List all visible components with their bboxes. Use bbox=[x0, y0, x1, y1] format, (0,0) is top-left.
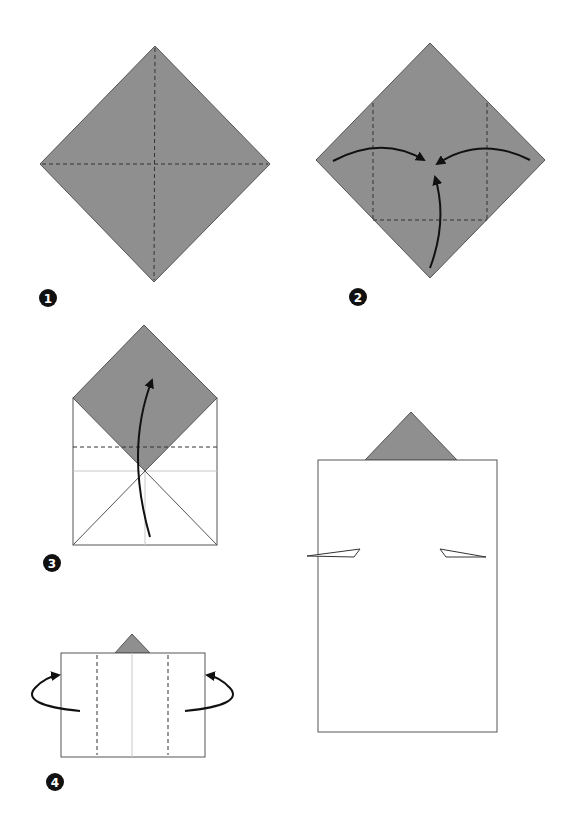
final-model bbox=[307, 412, 497, 732]
step-1: 1 bbox=[39, 46, 270, 307]
svg-text:4: 4 bbox=[51, 776, 59, 790]
step-4: 4 bbox=[32, 634, 233, 791]
step-badge-4: 4 bbox=[46, 773, 64, 791]
paper-white-rect bbox=[61, 653, 205, 757]
step-badge-1: 1 bbox=[39, 289, 57, 307]
paper-colored-tip bbox=[365, 412, 457, 460]
step-3: 3 bbox=[43, 325, 217, 572]
paper-colored-tip bbox=[115, 634, 150, 653]
paper-white-body bbox=[318, 460, 497, 732]
paper-square bbox=[316, 43, 545, 278]
step-badge-3: 3 bbox=[43, 554, 61, 572]
svg-text:3: 3 bbox=[48, 557, 56, 571]
svg-text:2: 2 bbox=[354, 291, 362, 305]
origami-diagram: 1 2 3 bbox=[0, 0, 567, 831]
step-badge-2: 2 bbox=[349, 288, 367, 306]
step-2: 2 bbox=[316, 43, 545, 306]
svg-text:1: 1 bbox=[44, 292, 52, 306]
